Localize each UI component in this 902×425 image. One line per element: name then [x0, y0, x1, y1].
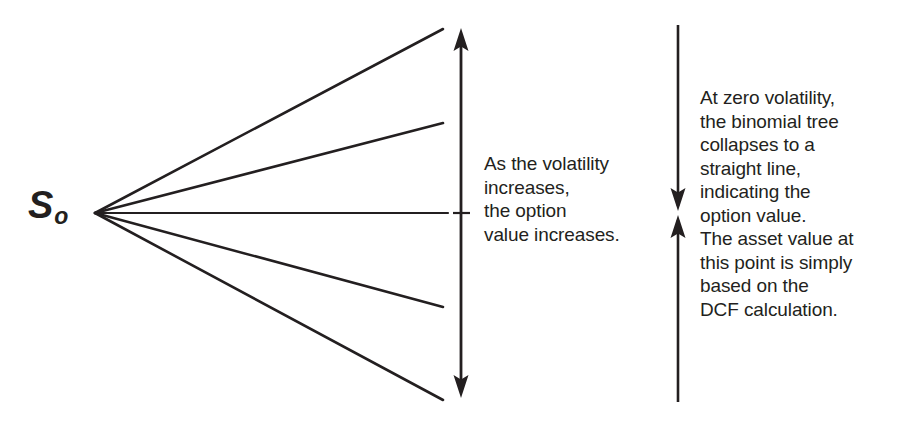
fan-ray-lower-outer: [95, 213, 443, 400]
annotation-volatility-increases: As the volatility increases, the option …: [484, 152, 644, 246]
origin-label-s-naught: So: [28, 186, 67, 224]
fan-ray-upper-outer: [95, 29, 443, 213]
fan-ray-lower-inner: [95, 213, 443, 307]
diagram-canvas: So As the volatility increases, the opti…: [0, 0, 902, 425]
fan-ray-upper-inner: [95, 123, 443, 213]
zero-volatility-collapse-arrow: [671, 25, 686, 402]
fan-ray-group: [95, 29, 448, 400]
annotation-zero-volatility: At zero volatility, the binomial tree co…: [700, 86, 890, 321]
origin-label-base: S: [28, 184, 53, 226]
volatility-range-double-arrow: [453, 28, 470, 398]
origin-label-subscript: o: [54, 203, 68, 229]
